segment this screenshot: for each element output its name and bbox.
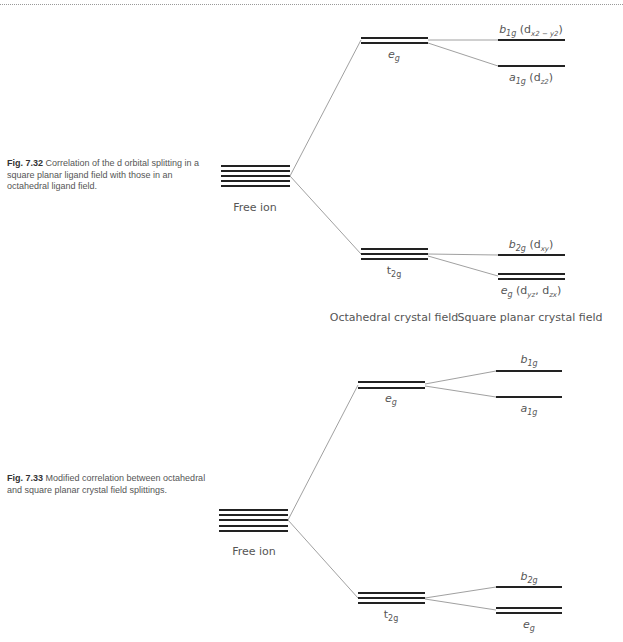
sq-b1g-label-2: b1g	[520, 353, 537, 368]
oct-t2g-label-2: t2g	[384, 608, 399, 623]
sq-b1g-label: b1g (dx2 − y2)	[499, 23, 563, 38]
fig-7-32-diagram: Free ion eg t2g b1g (dx2 − y2) a1g (dz2)…	[221, 23, 602, 324]
correlation-lines	[290, 40, 498, 276]
sq-a1g-label: a1g (dz2)	[509, 71, 553, 86]
sq-b2g-label: b2g (dxy)	[509, 238, 554, 253]
sq-eg-label: eg (dyz, dzx)	[501, 284, 562, 299]
oct-t2g-levels	[361, 249, 428, 259]
sq-a1g-label-2: a1g	[521, 402, 538, 417]
oct-eg-levels-2	[358, 382, 425, 388]
oct-eg-label: eg	[388, 48, 400, 63]
oct-t2g-label: t2g	[387, 264, 402, 279]
sq-b2g-label-2: b2g	[520, 570, 537, 585]
oct-eg-levels	[361, 38, 428, 43]
oct-t2g-levels-2	[358, 593, 425, 603]
oct-eg-label-2: eg	[385, 392, 397, 407]
fig-7-33-diagram: Free ion eg t2g b1g a1g b2g eg	[219, 353, 562, 633]
free-ion-label-2: Free ion	[232, 545, 276, 558]
free-ion-levels-2	[219, 510, 288, 531]
free-ion-label: Free ion	[233, 201, 277, 214]
sq-eg-label-2: eg	[523, 618, 535, 633]
free-ion-levels	[221, 166, 290, 186]
axis-label-octahedral: Octahedral crystal field	[330, 311, 458, 324]
orbital-diagrams: Free ion eg t2g b1g (dx2 − y2) a1g (dz2)…	[0, 0, 623, 642]
axis-label-square-planar: Square planar crystal field	[458, 311, 603, 324]
